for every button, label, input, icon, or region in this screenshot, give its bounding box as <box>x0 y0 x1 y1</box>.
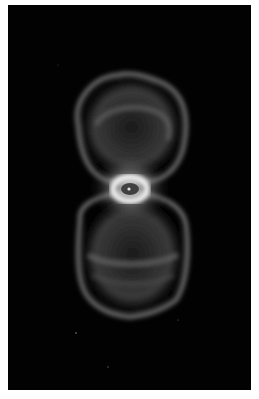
nebula-illustration <box>8 5 251 390</box>
central-star <box>127 187 130 190</box>
nebula-photo <box>8 5 251 390</box>
